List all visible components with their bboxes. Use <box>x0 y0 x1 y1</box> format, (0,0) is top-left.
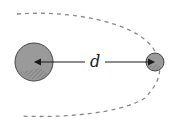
orbit-diagram: d <box>0 0 178 128</box>
distance-label: d <box>90 52 100 71</box>
